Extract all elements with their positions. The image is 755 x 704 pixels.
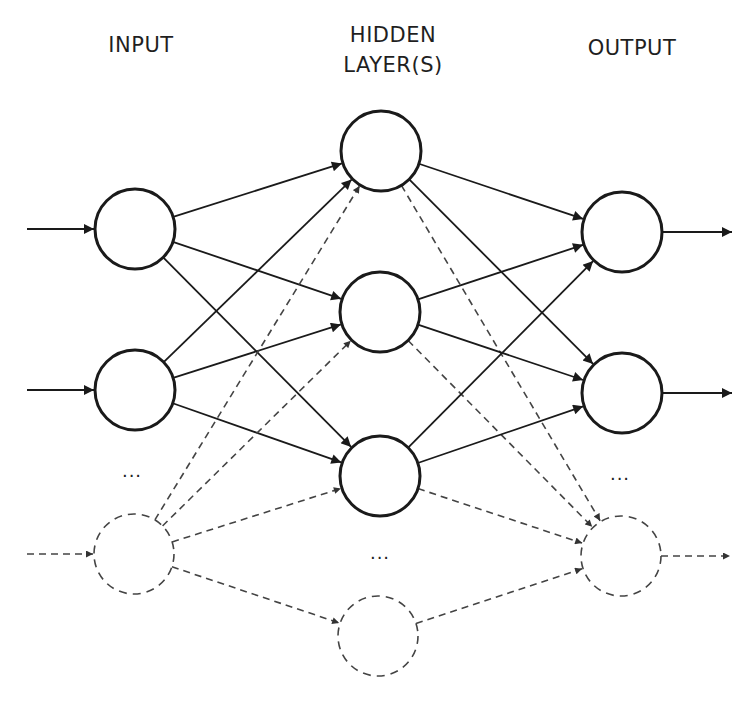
edge-h3-o1 [408, 261, 593, 447]
edge-in-h1 [155, 186, 360, 520]
edge-h1-o1 [419, 164, 583, 219]
edge-h2-o2 [418, 325, 583, 380]
output-node-o1 [582, 192, 662, 272]
edge-hn-on [416, 569, 582, 624]
input-node-i1 [95, 189, 175, 269]
edge-h3-on [418, 489, 582, 543]
hidden-node-h3 [340, 436, 420, 516]
edge-h3-o2 [418, 406, 583, 463]
hidden-node-h2 [340, 272, 420, 352]
edge-i2-h1 [164, 180, 352, 363]
output-ellipsis: ... [610, 463, 630, 484]
edge-in-hn [172, 567, 339, 623]
input-node-i2 [95, 350, 175, 430]
output-node-on-placeholder [581, 516, 661, 596]
input-node-in-placeholder [94, 514, 174, 594]
edge-h2-o1 [418, 245, 583, 300]
edge-i2-h2 [173, 324, 341, 377]
hidden-ellipsis: ... [370, 542, 390, 563]
hidden-node-h1 [341, 111, 421, 191]
edge-h2-on [408, 340, 592, 526]
output-node-o2 [582, 353, 662, 433]
edge-in-h2 [163, 341, 351, 526]
edge-i1-h1 [173, 163, 342, 217]
nodes-group [94, 111, 662, 676]
hidden-node-hn-placeholder [338, 596, 418, 676]
edge-in-h3 [172, 488, 341, 542]
network-graph [0, 0, 755, 704]
input-ellipsis: ... [122, 460, 142, 481]
